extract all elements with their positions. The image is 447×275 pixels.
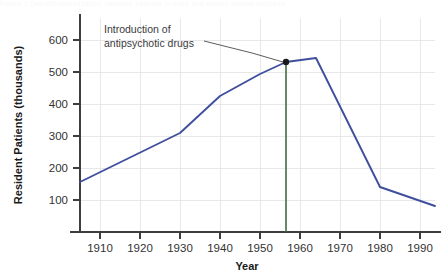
figure-container: Figure 1 Deinstitutionalization: residen…: [0, 0, 447, 275]
annotation-text-line-1: Introduction of: [104, 23, 171, 35]
x-tick-label-1920: 1920: [127, 242, 153, 254]
x-tick-label-1940: 1940: [207, 242, 233, 254]
y-tick-marks: [73, 40, 80, 200]
annotation-marker-dot: [283, 59, 289, 65]
y-axis-title: Resident Patients (thousands): [12, 46, 24, 205]
y-tick-label-200: 200: [49, 162, 68, 174]
line-chart: 600 500 400 300 200 100 1910 1920 1930 1…: [0, 0, 447, 275]
y-tick-label-400: 400: [49, 98, 68, 110]
x-tick-label-1990: 1990: [407, 242, 433, 254]
y-tick-label-100: 100: [49, 194, 68, 206]
x-axis-title: Year: [235, 260, 259, 272]
x-tick-label-1910: 1910: [87, 242, 113, 254]
y-tick-labels: 600 500 400 300 200 100: [49, 34, 68, 206]
y-tick-label-500: 500: [49, 66, 68, 78]
x-tick-label-1950: 1950: [247, 242, 273, 254]
x-tick-label-1960: 1960: [287, 242, 313, 254]
x-tick-labels: 1910 1920 1930 1940 1950 1960 1970 1980 …: [87, 242, 433, 254]
annotation-text-line-2: antipsychotic drugs: [104, 37, 194, 49]
y-tick-label-300: 300: [49, 130, 68, 142]
x-tick-marks: [100, 232, 420, 239]
y-tick-label-600: 600: [49, 34, 68, 46]
x-tick-label-1970: 1970: [327, 242, 353, 254]
x-tick-label-1980: 1980: [367, 242, 393, 254]
x-tick-label-1930: 1930: [167, 242, 193, 254]
